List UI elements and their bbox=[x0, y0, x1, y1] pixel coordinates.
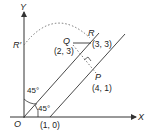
x-axis-label: X bbox=[137, 112, 145, 122]
point-A-coords: (1, 0) bbox=[40, 120, 60, 130]
angle-label-lower: 45° bbox=[38, 104, 50, 113]
point-P-label: P bbox=[95, 72, 101, 82]
y-axis-label: Y bbox=[20, 2, 27, 12]
point-Q-label: Q bbox=[63, 36, 70, 46]
point-R-prime-label: R′ bbox=[13, 40, 21, 50]
point-Q-coords: (2, 3) bbox=[54, 46, 74, 56]
angle-label-upper: 45° bbox=[27, 86, 39, 95]
point-R-label: R bbox=[88, 28, 95, 38]
right-angle-marker bbox=[84, 57, 91, 61]
point-P-coords: (4, 1) bbox=[92, 83, 112, 93]
coordinate-diagram: Y X O R′ Q (2, 3) R (3, 3) P (4, 1) (1, … bbox=[0, 0, 146, 133]
rotation-arc bbox=[24, 23, 90, 45]
point-R-coords: (3, 3) bbox=[92, 39, 112, 49]
origin-label: O bbox=[14, 119, 21, 129]
angle-arc-upper bbox=[24, 99, 37, 104]
